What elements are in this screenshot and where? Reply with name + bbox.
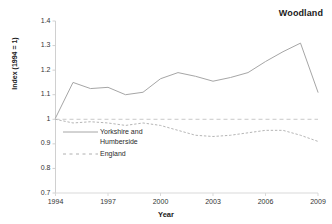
legend-label-england: England <box>100 149 126 159</box>
series-line-1 <box>56 43 319 118</box>
legend-item-england: England <box>62 149 143 160</box>
legend-key-solid-line <box>62 127 100 138</box>
axes-layer <box>53 21 319 196</box>
legend-label-yorkshire: Yorkshire and Humberside <box>100 127 143 147</box>
chart-legend: Yorkshire and Humberside England <box>62 127 143 162</box>
plot-area <box>0 0 332 224</box>
legend-key-dashed-line <box>62 149 100 160</box>
woodland-index-chart: Woodland Index (1994 = 1) Year 0.70.80.9… <box>0 0 332 224</box>
legend-item-yorkshire: Yorkshire and Humberside <box>62 127 143 147</box>
